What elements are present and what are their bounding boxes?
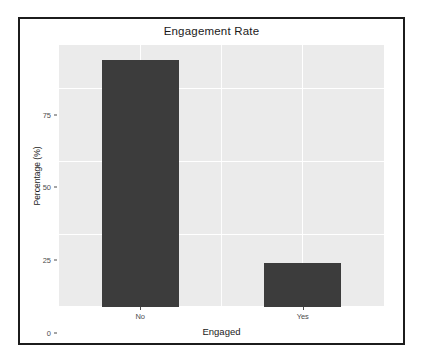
x-tick-label: No <box>110 312 170 321</box>
y-tick-label: 25 <box>25 256 51 265</box>
bar-yes <box>264 263 341 307</box>
y-axis: Percentage (%) 0255075 <box>20 45 59 307</box>
figure-frame: Engagement Rate Percentage (%) 0255075 E… <box>18 17 405 345</box>
x-axis-title: Engaged <box>59 326 384 337</box>
x-axis: Engaged NoYes <box>59 307 384 347</box>
bar-no <box>102 60 179 307</box>
y-tick-label: 50 <box>25 183 51 192</box>
y-tick-label: 0 <box>25 329 51 338</box>
x-tick-label: Yes <box>273 312 333 321</box>
x-tick-mark <box>140 307 141 310</box>
y-tick-mark <box>54 114 57 115</box>
chart-title: Engagement Rate <box>20 25 403 37</box>
y-tick-mark <box>54 260 57 261</box>
y-tick-label: 75 <box>25 110 51 119</box>
y-tick-mark <box>54 333 57 334</box>
y-tick-mark <box>54 187 57 188</box>
x-tick-mark <box>303 307 304 310</box>
y-axis-title: Percentage (%) <box>32 116 42 236</box>
gridline-minor-x <box>221 45 222 307</box>
plot-panel <box>59 45 384 307</box>
